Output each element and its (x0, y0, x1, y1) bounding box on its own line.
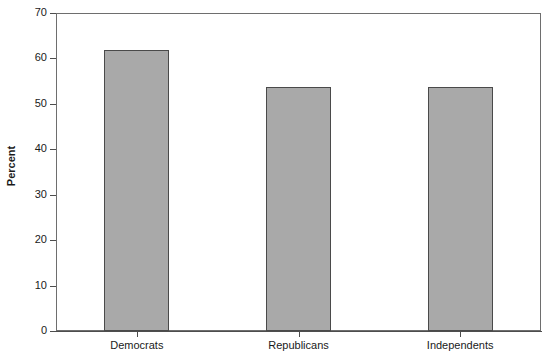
y-axis-tick-label: 50 (35, 96, 47, 111)
y-axis-tick: 70 (0, 13, 56, 14)
x-axis-tick-mark (299, 332, 300, 337)
y-axis-tick: 50 (0, 104, 56, 105)
y-axis-tick-mark (50, 286, 56, 287)
y-axis-tick: 30 (0, 195, 56, 196)
y-axis-tick-mark (50, 13, 56, 14)
x-axis-tick-mark (137, 332, 138, 337)
y-axis-tick-mark (50, 240, 56, 241)
y-axis-tick-label: 10 (35, 278, 47, 293)
y-axis-tick-mark (50, 149, 56, 150)
y-axis-tick-label: 30 (35, 187, 47, 202)
y-axis-tick: 20 (0, 240, 56, 241)
bar (104, 50, 169, 331)
y-axis-tick-label: 40 (35, 141, 47, 156)
y-axis-tick: 0 (0, 331, 56, 332)
y-axis-tick: 10 (0, 286, 56, 287)
y-axis-tick-label: 70 (35, 5, 47, 20)
y-axis-tick: 60 (0, 58, 56, 59)
bar (428, 87, 493, 331)
y-axis-tick-label: 0 (41, 323, 47, 338)
y-axis-tick-mark (50, 58, 56, 59)
y-axis-tick-mark (50, 104, 56, 105)
y-axis-tick-label: 60 (35, 50, 47, 65)
y-axis-tick: 40 (0, 149, 56, 150)
x-axis-tick-mark (460, 332, 461, 337)
y-axis-tick-mark (50, 331, 56, 332)
y-axis-tick-mark (50, 195, 56, 196)
x-axis-tick-label: Independents (427, 339, 494, 351)
y-axis-title-label: Percent (5, 145, 17, 185)
y-axis-title: Percent (0, 0, 22, 331)
x-axis-tick-label: Democrats (110, 339, 163, 351)
bar-chart: Percent 010203040506070 DemocratsRepubli… (0, 0, 550, 360)
y-axis-tick-label: 20 (35, 232, 47, 247)
x-axis-tick-label: Republicans (268, 339, 329, 351)
bar (266, 87, 331, 331)
